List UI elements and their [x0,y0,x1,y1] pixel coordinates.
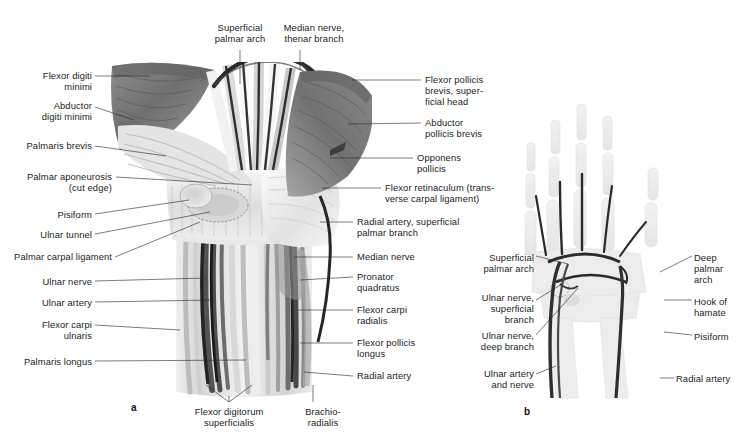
label-abductor-pollicis-brevis: Abductor pollicis brevis [425,117,523,139]
panel-b-illustration [525,104,658,398]
label-palmar-aponeurosis: Palmar aponeurosis (cut edge) [0,171,112,193]
label-hook-of-hamate: Hook of hamate [694,296,752,318]
label-palmaris-brevis: Palmaris brevis [10,140,92,151]
label-ulnar-nerve-superficial-branch: Ulnar nerve, superficial branch [470,292,534,326]
label-radial-artery-b: Radial artery [676,373,754,384]
label-abductor-digiti-minimi: Abductor digiti minimi [16,100,92,122]
label-radial-artery-superficial-palmar-branch: Radial artery, superficial palmar branch [357,216,509,238]
panel-id-a: a [131,402,137,413]
label-deep-palmar-arch: Deep palmar arch [694,252,752,286]
label-ulnar-nerve: Ulnar nerve [24,276,92,287]
label-flexor-digiti-minimi: Flexor digiti minimi [16,70,92,92]
panel-id-b: b [524,406,530,417]
label-ulnar-artery-and-nerve: Ulnar artery and nerve [470,368,534,390]
label-flexor-pollicis-brevis-superficial-head: Flexor pollicis brevis, super- ficial he… [425,74,523,108]
label-flexor-carpi-ulnaris: Flexor carpi ulnaris [24,319,92,341]
label-median-nerve-thenar-branch: Median nerve, thenar branch [271,22,357,44]
panel-a-illustration [111,56,373,397]
label-pisiform-b: Pisiform [694,331,752,342]
label-ulnar-artery: Ulnar artery [22,297,92,308]
label-superficial-palmar-arch: Superficial palmar arch [200,22,280,44]
label-superficial-palmar-arch-b: Superficial palmar arch [470,252,534,274]
label-palmaris-longus: Palmaris longus [10,356,92,367]
anatomy-figure: Superficial palmar arch Median nerve, th… [0,0,754,446]
label-ulnar-tunnel: Ulnar tunnel [20,229,92,240]
label-median-nerve: Median nerve [357,251,447,262]
label-flexor-digitorum-superficialis: Flexor digitorum superficialis [178,406,280,428]
label-flexor-pollicis-longus: Flexor pollicis longus [357,337,447,359]
label-opponens-pollicis: Opponens pollicis [417,152,507,174]
label-radial-artery: Radial artery [357,370,447,381]
label-flexor-retinaculum: Flexor retinaculum (trans- verse carpal … [385,182,537,204]
label-flexor-carpi-radialis: Flexor carpi radialis [357,304,447,326]
label-ulnar-nerve-deep-branch: Ulnar nerve, deep branch [470,330,534,352]
label-brachioradialis: Brachio- radialis [292,406,354,428]
label-pronator-quadratus: Pronator quadratus [357,271,447,293]
label-palmar-carpal-ligament: Palmar carpal ligament [0,251,112,262]
label-pisiform: Pisiform [30,209,92,220]
